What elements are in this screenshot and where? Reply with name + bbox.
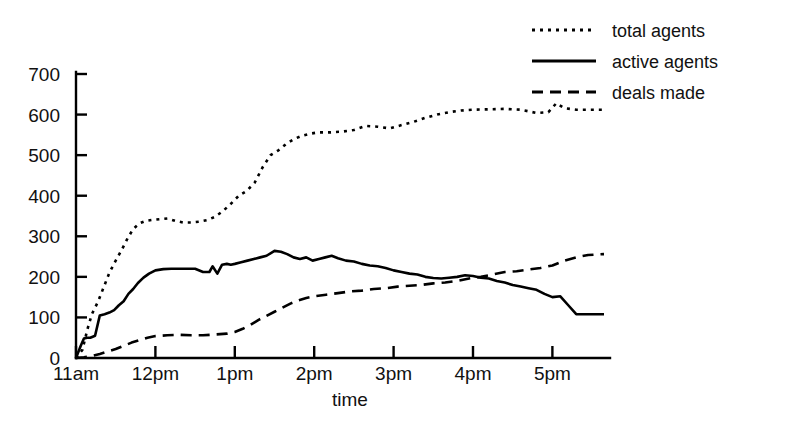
x-axis-ticks: 11am12pm1pm2pm3pm4pm5pm <box>53 346 571 384</box>
x-tick-label: 12pm <box>132 363 180 384</box>
x-tick-label: 2pm <box>296 363 333 384</box>
series-line-total-agents <box>76 103 604 358</box>
y-tick-label: 500 <box>28 145 60 166</box>
series-line-active-agents <box>76 251 604 358</box>
y-axis-ticks: 0100200300400500600700 <box>28 64 87 369</box>
line-chart: 0100200300400500600700 11am12pm1pm2pm3pm… <box>0 0 795 431</box>
x-axis-title: time <box>332 389 368 410</box>
x-tick-label: 11am <box>53 363 99 384</box>
y-tick-label: 400 <box>28 186 60 207</box>
chart-legend: total agentsactive agentsdeals made <box>532 21 718 103</box>
legend-label-total-agents: total agents <box>612 21 705 41</box>
y-tick-label: 200 <box>28 267 60 288</box>
axis-lines <box>76 72 610 358</box>
x-tick-label: 3pm <box>375 363 412 384</box>
legend-label-active-agents: active agents <box>612 52 718 72</box>
chart-figure: 0100200300400500600700 11am12pm1pm2pm3pm… <box>0 0 795 431</box>
y-tick-label: 100 <box>28 307 60 328</box>
x-tick-label: 4pm <box>455 363 492 384</box>
legend-label-deals-made: deals made <box>612 83 705 103</box>
y-tick-label: 700 <box>28 64 60 85</box>
y-tick-label: 300 <box>28 226 60 247</box>
x-tick-label: 1pm <box>216 363 253 384</box>
x-tick-label: 5pm <box>534 363 571 384</box>
y-tick-label: 600 <box>28 105 60 126</box>
series-lines <box>76 103 604 358</box>
